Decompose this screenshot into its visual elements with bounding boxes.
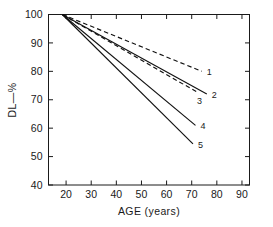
series-label-5: 5 bbox=[198, 140, 203, 150]
y-tick-label-40: 40 bbox=[31, 179, 43, 191]
x-axis-title: AGE (years) bbox=[118, 205, 180, 217]
x-tick-label-70: 70 bbox=[186, 188, 198, 200]
x-tick-label-30: 30 bbox=[85, 188, 97, 200]
series-label-3: 3 bbox=[197, 96, 202, 106]
x-tick-label-80: 80 bbox=[211, 188, 223, 200]
x-tick-label-60: 60 bbox=[161, 188, 173, 200]
y-tick-label-90: 90 bbox=[31, 37, 43, 49]
x-tick-label-90: 90 bbox=[236, 188, 248, 200]
y-axis-title: DL—% bbox=[6, 83, 18, 118]
y-tick-label-70: 70 bbox=[31, 93, 43, 105]
x-tick-label-40: 40 bbox=[110, 188, 122, 200]
series-label-2: 2 bbox=[212, 90, 217, 100]
y-tick-label-80: 80 bbox=[31, 65, 43, 77]
series-label-4: 4 bbox=[200, 121, 205, 131]
x-tick-label-50: 50 bbox=[136, 188, 148, 200]
line-chart: 2030405060708090 405060708090100 12345 A… bbox=[0, 0, 273, 227]
y-tick-label-60: 60 bbox=[31, 122, 43, 134]
x-tick-label-20: 20 bbox=[60, 188, 72, 200]
series-label-1: 1 bbox=[207, 67, 212, 77]
chart-figure: 2030405060708090 405060708090100 12345 A… bbox=[0, 0, 273, 227]
y-tick-label-100: 100 bbox=[25, 8, 43, 20]
y-tick-label-50: 50 bbox=[31, 150, 43, 162]
